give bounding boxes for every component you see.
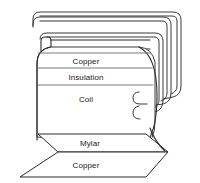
label-coil: Coil bbox=[58, 95, 114, 104]
diagram-canvas bbox=[0, 0, 200, 183]
label-copper-top: Copper bbox=[58, 57, 114, 66]
label-mylar: Mylar bbox=[62, 139, 118, 148]
coil-construction-diagram: Copper Insulation Coil Mylar Copper bbox=[0, 0, 200, 183]
label-copper-bottom: Copper bbox=[58, 161, 114, 170]
label-insulation: Insulation bbox=[56, 73, 116, 82]
